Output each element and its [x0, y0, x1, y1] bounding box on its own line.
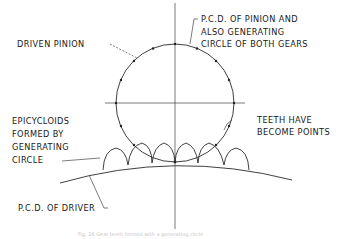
label-pcd-pinion-1: P.C.D. OF PINION AND	[201, 14, 298, 24]
gear-diagram: DRIVEN PINION P.C.D. OF PINION AND ALSO …	[0, 0, 352, 239]
label-driven-pinion: DRIVEN PINION	[17, 39, 85, 49]
label-pcd-driver: P.C.D. OF DRIVER	[18, 203, 95, 213]
label-pcd-pinion-3: CIRCLE OF BOTH GEARS	[201, 39, 308, 49]
label-teeth-1: TEETH HAVE	[256, 115, 312, 125]
label-epicycloids-2: FORMED BY	[12, 129, 64, 139]
leader-driven-pinion	[110, 44, 137, 58]
leader-epicycloids	[62, 158, 100, 161]
driver-pitch-arc	[60, 166, 292, 183]
label-epicycloids-4: CIRCLE	[12, 155, 43, 165]
leader-pcd-pinion	[190, 19, 198, 44]
label-epicycloids-1: EPICYCLOIDS	[12, 116, 69, 126]
label-teeth-2: BECOME POINTS	[257, 127, 330, 137]
label-epicycloids-3: GENERATING	[12, 142, 69, 152]
label-pcd-pinion-2: ALSO GENERATING	[201, 27, 284, 37]
figure-caption: Fig. 26 Gear teeth formed with a generat…	[78, 231, 203, 238]
